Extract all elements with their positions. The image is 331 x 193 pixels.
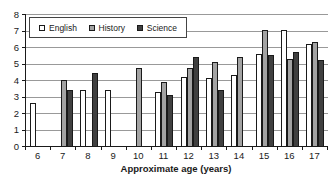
y-tick-mark-2 <box>22 113 25 114</box>
y-tick-mark-3 <box>22 97 25 98</box>
x-tick-mark-12 <box>327 147 328 150</box>
legend-label-english: English <box>49 23 77 33</box>
bar-science-age-15 <box>268 55 274 146</box>
bar-chart: English History Science Approximate age … <box>0 0 331 193</box>
bar-history-age-10 <box>136 68 142 146</box>
y-tick-label-5: 5 <box>0 58 19 69</box>
bar-science-age-7 <box>67 90 73 146</box>
x-tick-label-16: 16 <box>277 150 302 161</box>
bar-science-age-12 <box>193 57 199 146</box>
y-tick-label-3: 3 <box>0 91 19 102</box>
plot-area: English History Science <box>25 14 328 147</box>
y-tick-mark-6 <box>22 47 25 48</box>
x-tick-label-17: 17 <box>302 150 327 161</box>
x-tick-label-11: 11 <box>151 150 176 161</box>
history-swatch-icon <box>89 25 95 31</box>
science-swatch-icon <box>137 25 143 31</box>
legend-item-english: English <box>39 23 77 33</box>
bar-english-age-8 <box>80 90 86 146</box>
x-tick-label-9: 9 <box>101 150 126 161</box>
bar-english-age-6 <box>30 103 36 146</box>
y-tick-label-2: 2 <box>0 108 19 119</box>
legend-item-history: History <box>89 23 125 33</box>
legend: English History Science <box>29 17 187 38</box>
gridline-y-8 <box>26 14 328 15</box>
bar-science-age-16 <box>293 52 299 146</box>
y-tick-label-8: 8 <box>0 9 19 20</box>
y-tick-label-4: 4 <box>0 75 19 86</box>
x-tick-label-14: 14 <box>226 150 251 161</box>
y-tick-mark-7 <box>22 31 25 32</box>
x-tick-label-15: 15 <box>252 150 277 161</box>
x-tick-label-8: 8 <box>75 150 100 161</box>
x-tick-label-12: 12 <box>176 150 201 161</box>
y-tick-label-0: 0 <box>0 141 19 152</box>
y-tick-mark-8 <box>22 14 25 15</box>
y-tick-label-1: 1 <box>0 124 19 135</box>
bar-science-age-17 <box>318 60 324 146</box>
y-tick-mark-5 <box>22 64 25 65</box>
legend-label-science: Science <box>147 23 177 33</box>
x-axis-title: Approximate age (years) <box>25 163 327 174</box>
english-swatch-icon <box>39 25 45 31</box>
x-tick-label-10: 10 <box>126 150 151 161</box>
x-tick-label-7: 7 <box>50 150 75 161</box>
legend-label-history: History <box>99 23 125 33</box>
bar-science-age-11 <box>167 95 173 146</box>
bar-science-age-8 <box>92 73 98 146</box>
y-tick-label-6: 6 <box>0 42 19 53</box>
bar-english-age-9 <box>105 90 111 146</box>
y-tick-mark-4 <box>22 80 25 81</box>
legend-item-science: Science <box>137 23 177 33</box>
x-tick-label-6: 6 <box>25 150 50 161</box>
y-tick-mark-1 <box>22 130 25 131</box>
bar-science-age-13 <box>218 90 224 146</box>
y-tick-label-7: 7 <box>0 25 19 36</box>
bar-history-age-14 <box>237 57 243 146</box>
x-tick-label-13: 13 <box>201 150 226 161</box>
